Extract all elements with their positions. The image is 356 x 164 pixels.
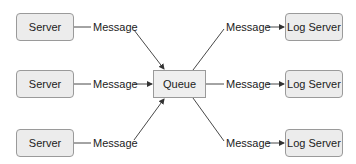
outgoing-message-label-3: Message	[226, 137, 271, 149]
log-server-label: Log Server	[287, 137, 341, 149]
log-server-node-2: Log Server	[285, 70, 343, 98]
outgoing-message-label-2: Message	[226, 78, 271, 90]
server-label: Server	[29, 78, 61, 90]
log-server-node-1: Log Server	[285, 13, 343, 41]
incoming-message-label-1: Message	[93, 21, 138, 33]
queue-node: Queue	[153, 70, 206, 98]
queue-label: Queue	[163, 78, 196, 90]
outgoing-message-label-1: Message	[226, 21, 271, 33]
server-label: Server	[29, 21, 61, 33]
log-server-node-3: Log Server	[285, 129, 343, 157]
incoming-message-label-2: Message	[93, 78, 138, 90]
log-server-label: Log Server	[287, 21, 341, 33]
log-server-label: Log Server	[287, 78, 341, 90]
incoming-message-label-3: Message	[93, 137, 138, 149]
server-node-1: Server	[16, 13, 74, 41]
server-label: Server	[29, 137, 61, 149]
server-node-3: Server	[16, 129, 74, 157]
server-node-2: Server	[16, 70, 74, 98]
